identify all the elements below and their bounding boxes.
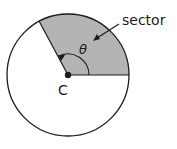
sector-label: sector xyxy=(122,12,166,28)
center-label: C xyxy=(58,82,68,98)
angle-label: θ xyxy=(79,42,87,57)
sector-diagram: θ C sector xyxy=(0,0,177,149)
center-point xyxy=(65,72,71,78)
